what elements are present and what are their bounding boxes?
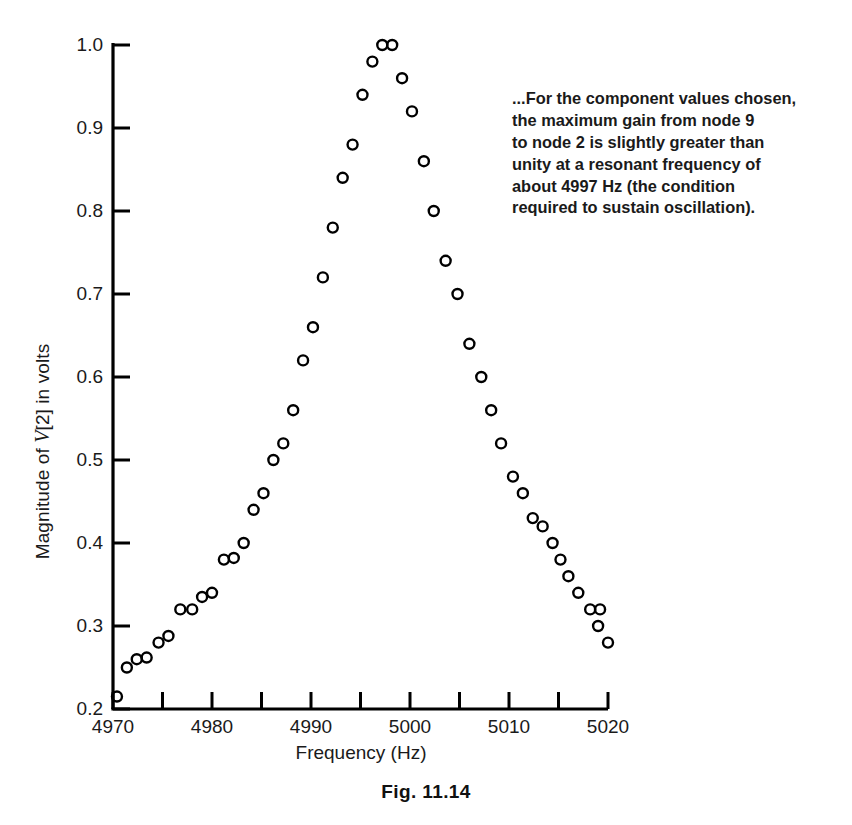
data-point-marker [407,106,417,116]
data-point-marker [298,355,308,365]
annotation-line-3: to node 2 is slightly greater than [512,132,828,154]
annotation-line-1: ...For the component values chosen, [512,88,828,110]
data-point-marker [239,538,249,548]
data-point-marker [219,555,229,565]
x-tick-label: 5000 [365,717,455,736]
data-point-marker [419,156,429,166]
data-point-marker [464,339,474,349]
data-point-marker [486,405,496,415]
x-axis-title: Frequency (Hz) [113,742,609,764]
data-point-marker [555,555,565,565]
data-point-marker [573,588,583,598]
y-tick-label: 0.9 [45,118,103,137]
data-point-marker [163,631,173,641]
data-point-marker [249,505,259,515]
x-tick-label: 4990 [266,717,356,736]
x-tick-label: 4970 [68,717,158,736]
figure-caption: Fig. 11.14 [0,781,852,803]
data-point-marker [278,438,288,448]
data-point-marker [585,604,595,614]
data-point-marker [318,272,328,282]
data-point-marker [563,571,573,581]
data-point-marker [377,40,387,50]
annotation-line-5: about 4997 Hz (the condition [512,176,828,198]
y-tick-label: 0.8 [45,201,103,220]
annotation-line-6: required to sustain oscillation). [512,197,828,219]
annotation-line-4: unity at a resonant frequency of [512,154,828,176]
data-point-marker [508,472,518,482]
data-point-marker [338,173,348,183]
data-point-marker [595,604,605,614]
data-point-marker [367,57,377,67]
data-point-marker [132,654,142,664]
data-point-marker [197,592,207,602]
data-point-marker [328,223,338,233]
x-tick-label: 5020 [563,717,653,736]
data-point-marker [187,604,197,614]
x-tick-label: 4980 [167,717,257,736]
y-tick-label: 1.0 [45,35,103,54]
y-tick-label: 0.5 [45,450,103,469]
data-point-marker [268,455,278,465]
x-tick-label: 5010 [464,717,554,736]
data-point-marker [229,553,239,563]
data-point-marker [348,140,358,150]
chart-figure: Magnitude of V[2] in volts 1.00.90.80.70… [0,0,852,770]
data-point-marker [357,90,367,100]
data-point-marker [538,521,548,531]
data-point-marker [453,289,463,299]
annotation-text: ...For the component values chosen, the … [512,88,828,219]
figure-page: Magnitude of V[2] in volts 1.00.90.80.70… [0,0,852,825]
data-point-marker [308,322,318,332]
data-point-marker [154,638,164,648]
data-point-marker [207,588,217,598]
y-axis-title-suffix: [2] in volts [32,344,53,431]
data-point-marker [593,621,603,631]
annotation-line-2: the maximum gain from node 9 [512,110,828,132]
data-point-marker [122,663,132,673]
data-point-marker [387,40,397,50]
data-point-marker [429,206,439,216]
data-point-marker [603,638,613,648]
data-point-marker [441,256,451,266]
data-point-marker [288,405,298,415]
data-point-marker [142,653,152,663]
y-tick-label: 0.3 [45,616,103,635]
data-point-marker [476,372,486,382]
y-tick-label: 0.7 [45,284,103,303]
data-point-marker [496,438,506,448]
data-point-marker [175,604,185,614]
y-tick-label: 0.4 [45,533,103,552]
y-tick-label: 0.6 [45,367,103,386]
data-point-marker [518,488,528,498]
data-point-marker [548,538,558,548]
data-point-marker [397,73,407,83]
y-axis-title-variable: V [31,431,53,443]
data-point-marker [528,513,538,523]
data-point-marker [258,488,268,498]
